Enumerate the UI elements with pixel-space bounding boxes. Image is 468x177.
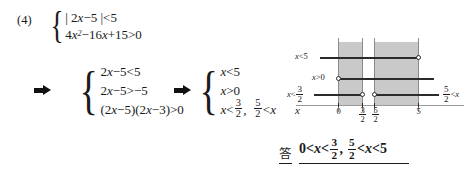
right-arrow-icon (34, 85, 51, 96)
solved-line-2: x>0 (220, 81, 275, 100)
guide-line-5 (418, 38, 419, 112)
answer-expression: 0<x< 3 2 , 5 2 <x<5 (299, 138, 409, 164)
fraction-numerator: 3 (359, 106, 365, 115)
guide-line-0 (338, 38, 339, 112)
fraction-denominator: 2 (372, 114, 378, 124)
fraction-numerator: 5 (443, 85, 450, 94)
fraction-denominator: 2 (235, 108, 243, 120)
fraction-numerator: 5 (348, 137, 356, 148)
system-expanded: { 2x−5<5 2x−5>−5 (2x−5)(2x−3)>0 (76, 62, 184, 119)
fraction-numerator: 3 (296, 85, 303, 94)
answer-kanji-label: 答 (279, 143, 292, 164)
segment-5-halves-lt-x (375, 94, 439, 96)
open-endpoint-5-halves (372, 92, 377, 97)
inequality-abs: | 2x−5 |<5 (65, 9, 142, 26)
label-x-lt-3-halves: x< 3 2 (287, 85, 304, 104)
brace-icon: { (80, 70, 98, 110)
worksheet-page: (4) { | 2x−5 |<5 4x2−16x+15>0 { 2x−5<5 2… (0, 0, 468, 177)
answer-comma: , (339, 141, 343, 156)
fraction-denominator: 2 (443, 94, 450, 104)
fraction-denominator: 2 (254, 108, 262, 120)
guide-line-5-halves (374, 38, 375, 112)
system-original: { | 2x−5 |<5 4x2−16x+15>0 (48, 9, 142, 43)
answer-var-2: x (365, 141, 372, 156)
fraction-numerator: 3 (330, 137, 338, 148)
fraction-denominator: 2 (296, 94, 303, 104)
fraction-denominator: 2 (330, 149, 338, 161)
fraction-numerator: 5 (372, 106, 378, 115)
solved-line-3: x< 3 2 , 5 2 <x (220, 100, 275, 119)
brace-icon: { (200, 70, 218, 110)
axis-variable-label: x (295, 105, 300, 116)
open-endpoint-5 (416, 55, 421, 60)
answer-op-1: < (321, 141, 329, 156)
guide-line-3-halves (362, 38, 363, 112)
segment-x-gt-0 (339, 78, 434, 80)
answer-line: 答 0<x< 3 2 , 5 2 <x<5 (279, 138, 409, 164)
open-endpoint-3-halves (360, 92, 365, 97)
number-line-diagram: x<5 x>0 x< 3 2 5 2 <x 0 3 2 (296, 33, 464, 117)
open-endpoint-0 (336, 76, 341, 81)
fraction-denominator: 2 (348, 149, 356, 161)
segment-x-lt-3-halves (314, 94, 363, 96)
right-arrow-icon (174, 85, 191, 96)
system-solved: { x<5 x>0 x< 3 2 , 5 2 <x (196, 62, 276, 119)
expanded-line-1: 2x−5<5 (100, 62, 183, 81)
segment-x-lt-5 (320, 57, 419, 59)
inequality-quadratic: 4x2−16x+15>0 (65, 26, 142, 43)
answer-tail: <5 (372, 141, 387, 156)
tick-label-3-halves: 3 2 (357, 106, 368, 124)
expanded-line-2: 2x−5>−5 (100, 81, 183, 100)
label-x-lt-5: x<5 (295, 52, 308, 61)
fraction-numerator: 5 (254, 98, 262, 109)
problem-number: (4) (17, 14, 32, 27)
brace-icon: { (51, 11, 64, 41)
tick-label-0: 0 (334, 107, 343, 116)
fraction-denominator: 2 (359, 114, 365, 124)
answer-lead: 0< (299, 141, 314, 156)
expanded-line-3: (2x−5)(2x−3)>0 (100, 100, 183, 119)
label-5-halves-lt-x: 5 2 <x (442, 85, 459, 104)
tick-label-5: 5 (414, 107, 423, 116)
label-x-gt-0: x>0 (312, 73, 325, 82)
solved-line-1: x<5 (220, 62, 275, 81)
fraction-numerator: 3 (235, 98, 243, 109)
answer-op-2: < (357, 141, 365, 156)
tick-label-5-halves: 5 2 (370, 106, 381, 124)
answer-var-1: x (314, 141, 321, 156)
